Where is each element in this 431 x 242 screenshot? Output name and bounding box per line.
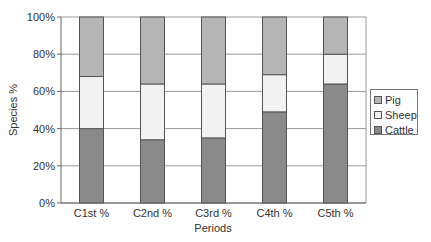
bar-segment-cattle (141, 140, 165, 203)
bar-segment-pig (324, 17, 348, 54)
legend: Pig Sheep Cattle (370, 89, 418, 135)
y-tick-label: 40% (33, 123, 55, 135)
x-axis-title: Periods (194, 222, 232, 234)
bar-segment-pig (80, 17, 104, 77)
bar-segment-cattle (80, 129, 104, 203)
legend-label: Sheep (385, 109, 417, 121)
legend-swatch-pig (374, 96, 382, 104)
y-tick-label: 0% (39, 197, 55, 209)
x-tick-label: C2nd % (133, 207, 172, 219)
x-tick-label: C4th % (256, 207, 292, 219)
axes: 0%20%40%60%80%100%C1st %C2nd %C3rd %C4th… (27, 11, 366, 219)
legend-label: Cattle (385, 124, 414, 136)
legend-swatch-cattle (374, 126, 382, 134)
y-tick-label: 80% (33, 48, 55, 60)
x-tick-label: C1st % (74, 207, 110, 219)
x-tick-label: C3rd % (195, 207, 232, 219)
bars (80, 17, 348, 203)
legend-item-sheep: Sheep (374, 107, 417, 122)
bar-segment-sheep (263, 75, 287, 112)
bar-segment-cattle (324, 84, 348, 203)
bar-segment-sheep (80, 77, 104, 129)
bar-segment-sheep (141, 84, 165, 140)
y-axis-title: Species % (7, 84, 19, 136)
x-tick-label: C5th % (317, 207, 353, 219)
legend-label: Pig (385, 94, 401, 106)
bar-segment-pig (141, 17, 165, 84)
legend-item-pig: Pig (374, 92, 417, 107)
bar-segment-cattle (202, 138, 226, 203)
y-tick-label: 60% (33, 85, 55, 97)
legend-swatch-sheep (374, 111, 382, 119)
bar-segment-cattle (263, 112, 287, 203)
bar-segment-pig (202, 17, 226, 84)
legend-item-cattle: Cattle (374, 122, 417, 137)
stacked-bar-chart: 0%20%40%60%80%100%C1st %C2nd %C3rd %C4th… (0, 0, 431, 242)
bar-segment-sheep (324, 54, 348, 84)
y-tick-label: 100% (27, 11, 55, 23)
bar-segment-pig (263, 17, 287, 75)
bar-segment-sheep (202, 84, 226, 138)
y-tick-label: 20% (33, 160, 55, 172)
